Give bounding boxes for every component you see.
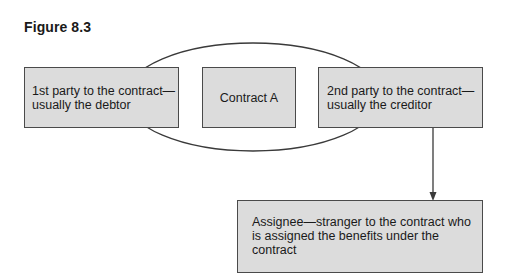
first-party-box: 1st party to the contract— usually the d… bbox=[24, 67, 179, 128]
first-party-line2: usually the debtor bbox=[32, 98, 175, 112]
assignee-line2: is assigned the benefits under the bbox=[252, 229, 477, 243]
contract-label: Contract A bbox=[203, 91, 295, 105]
assignee-line3: contract bbox=[252, 243, 477, 257]
assignee-line1: Assignee—stranger to the contract who bbox=[252, 215, 477, 229]
assignee-box: Assignee—stranger to the contract who is… bbox=[237, 200, 483, 273]
second-party-line2: usually the creditor bbox=[327, 98, 474, 112]
first-party-line1: 1st party to the contract— bbox=[32, 84, 175, 98]
second-party-line1: 2nd party to the contract— bbox=[327, 84, 474, 98]
second-party-box: 2nd party to the contract— usually the c… bbox=[318, 67, 483, 128]
contract-box: Contract A bbox=[202, 67, 296, 128]
